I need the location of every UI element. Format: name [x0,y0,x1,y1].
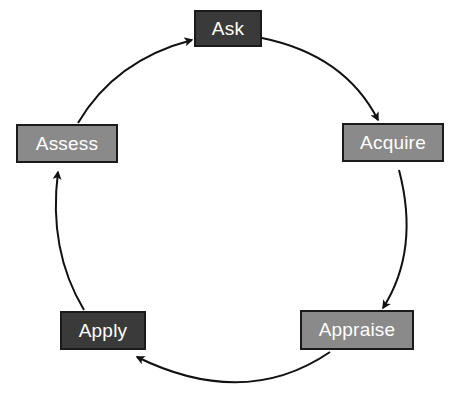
arrow-acquire-to-appraise [383,170,407,308]
arrow-ask-to-acquire [262,38,378,120]
arrow-apply-to-assess [56,172,84,310]
node-apply: Apply [60,311,146,350]
arrow-appraise-to-apply [137,352,330,382]
node-acquire: Acquire [342,123,444,162]
node-apply-label: Apply [79,320,128,342]
arrow-assess-to-ask [78,40,192,123]
node-ask-label: Ask [212,18,244,40]
node-assess: Assess [16,124,118,163]
node-acquire-label: Acquire [360,132,426,154]
node-appraise: Appraise [300,310,414,350]
node-appraise-label: Appraise [319,319,396,341]
node-ask: Ask [194,10,262,47]
node-assess-label: Assess [36,133,98,155]
